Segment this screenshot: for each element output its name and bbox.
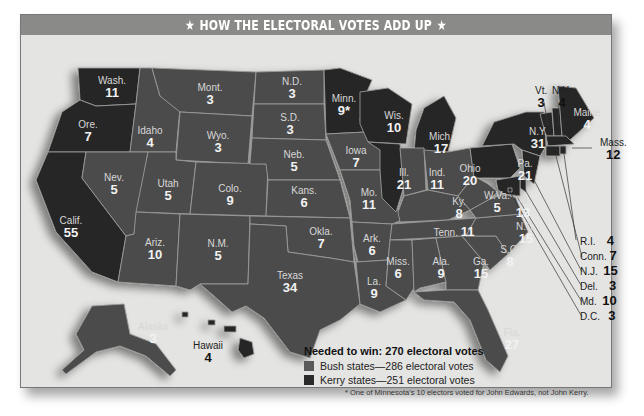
label-kans: Kans.6	[291, 185, 317, 209]
bush-swatch	[304, 361, 314, 371]
legend-item-bush: Bush states—286 electoral votes	[304, 360, 484, 372]
label-sd: S.D.3	[280, 112, 299, 136]
label-iowa: Iowa7	[345, 145, 366, 169]
legend: Needed to win: 270 electoral votes Bush …	[304, 345, 484, 388]
label-texas: Texas34	[277, 270, 303, 294]
kerry-swatch	[304, 375, 314, 385]
label-fla: Fla.27	[504, 327, 521, 351]
label-idaho: Idaho4	[137, 125, 162, 149]
label-ore: Ore.7	[78, 119, 97, 143]
label-nj: N.J. 15	[580, 265, 618, 278]
label-sc: S.C.8	[500, 244, 519, 268]
label-mo: Mo.11	[361, 187, 378, 211]
label-nh: N.H.4	[552, 85, 572, 110]
footnote: * One of Minnesota's 10 electors voted f…	[345, 388, 589, 397]
label-miss: Miss.6	[386, 256, 409, 280]
label-pa: Pa.21	[517, 158, 532, 182]
label-alaska: Alaska3	[138, 321, 168, 345]
label-nc: N.C.15	[516, 221, 536, 245]
label-hawaii: Hawaii4	[193, 340, 223, 365]
label-ill: Ill.21	[397, 167, 411, 191]
label-mich: Mich.17	[429, 131, 453, 155]
label-del: Del. 3	[580, 280, 616, 293]
label-conn: Conn. 7	[580, 250, 617, 263]
label-wva: W.Va.5	[484, 190, 510, 214]
label-ala: Ala.9	[432, 256, 449, 280]
label-md: Md. 10	[580, 295, 617, 308]
label-wis: Wis.10	[384, 110, 403, 134]
label-neb: Neb.5	[283, 149, 304, 173]
legend-heading: Needed to win: 270 electoral votes	[304, 345, 484, 357]
label-ga: Ga.15	[473, 256, 489, 280]
label-maine: Maine4	[573, 107, 600, 131]
label-nev: Nev.5	[104, 172, 124, 196]
label-tenn: Tenn. 11	[434, 226, 475, 238]
label-ariz: Ariz.10	[145, 237, 165, 261]
label-ky: Ky.8	[452, 196, 466, 220]
label-ohio: Ohio20	[459, 163, 480, 187]
label-okla: Okla.7	[309, 226, 332, 250]
label-ind: Ind.11	[429, 167, 446, 191]
label-ny: N.Y.31	[529, 126, 547, 150]
label-colo: Colo.9	[218, 183, 241, 207]
label-nd: N.D.3	[282, 76, 302, 100]
label-nm: N.M.5	[207, 238, 228, 262]
legend-item-kerry: Kerry states—251 electoral votes	[304, 374, 484, 386]
state-ri[interactable]	[560, 146, 566, 154]
label-dc: D.C. 3	[580, 310, 616, 323]
label-wyo: Wyo.3	[207, 130, 230, 154]
label-wash: Wash.11	[98, 75, 126, 99]
label-minn: Minn.9*	[332, 93, 356, 117]
label-ri: R.I. 4	[580, 235, 614, 248]
label-ark: Ark.6	[363, 233, 381, 257]
label-la: La.9	[367, 276, 381, 300]
state-conn[interactable]	[546, 146, 560, 156]
label-mont: Mont.3	[197, 82, 222, 106]
label-calif: Calif.55	[60, 215, 83, 239]
label-mass: Mass.12	[600, 137, 627, 162]
label-vt: Vt.3	[535, 85, 547, 110]
label-va: Va.13	[516, 195, 530, 219]
label-utah: Utah5	[157, 178, 178, 202]
